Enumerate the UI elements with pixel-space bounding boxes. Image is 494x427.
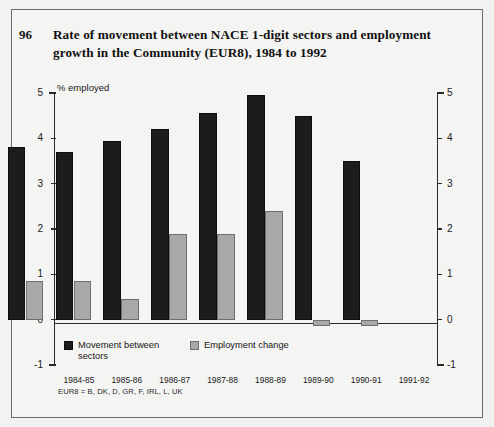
figure-footnote: EUR8 = B, DK, D, GR, F, IRL, L, UK xyxy=(58,387,183,396)
x-axis-label-1986-87: 1986-87 xyxy=(151,375,199,385)
legend-item-employment[interactable]: Employment change xyxy=(190,340,289,351)
bar-employment-1984-85 xyxy=(26,281,44,320)
legend-item-movement[interactable]: Movement between sectors xyxy=(64,340,174,362)
bar-employment-1987-88 xyxy=(169,234,187,319)
bar-movement-1991-92 xyxy=(343,161,361,320)
bar-employment-1989-90 xyxy=(265,211,283,320)
y-tick-right-5 xyxy=(437,92,444,93)
x-axis-label-1989-90: 1989-90 xyxy=(294,375,342,385)
bar-movement-1985-86 xyxy=(56,152,74,320)
y-tick-label-right-3: 3 xyxy=(447,178,467,189)
y-tick-label-right-4: 4 xyxy=(447,132,467,143)
y-tick-label-right--1: -1 xyxy=(447,359,467,370)
y-tick-label-left--1: -1 xyxy=(23,359,43,370)
bar-movement-1989-90 xyxy=(247,95,265,319)
y-axis-unit-label: % employed xyxy=(57,82,109,93)
legend-label: Movement between sectors xyxy=(78,340,174,362)
bar-movement-1987-88 xyxy=(151,129,169,319)
y-tick-label-left-1: 1 xyxy=(23,268,43,279)
chart-legend: Movement between sectorsEmployment chang… xyxy=(64,340,289,362)
bar-employment-1985-86 xyxy=(74,281,92,320)
legend-swatch-black-icon xyxy=(64,341,73,350)
y-tick-right--1 xyxy=(437,364,444,365)
figure-number: 96 xyxy=(19,26,41,43)
page-title: Rate of movement between NACE 1-digit se… xyxy=(53,26,459,61)
bar-employment-1990-91 xyxy=(313,320,331,327)
x-axis-label-1984-85: 1984-85 xyxy=(55,375,103,385)
figure-title-row: 96 Rate of movement between NACE 1-digit… xyxy=(19,26,459,61)
x-axis-label-1990-91: 1990-91 xyxy=(342,375,390,385)
bar-employment-1988-89 xyxy=(217,234,235,319)
bar-movement-1984-85 xyxy=(8,147,26,319)
y-tick-label-right-1: 1 xyxy=(447,268,467,279)
x-axis-label-1987-88: 1987-88 xyxy=(199,375,247,385)
bar-movement-1988-89 xyxy=(199,113,217,319)
bar-movement-1990-91 xyxy=(295,116,313,320)
y-tick-label-right-5: 5 xyxy=(447,87,467,98)
x-axis-labels: 1984-851985-861986-871987-881988-891989-… xyxy=(55,375,438,387)
legend-swatch-gray-icon xyxy=(190,341,199,350)
bar-plot-area xyxy=(55,93,438,365)
bar-movement-1986-87 xyxy=(103,141,121,320)
figure-page: 96 Rate of movement between NACE 1-digit… xyxy=(0,0,494,427)
bar-employment-1986-87 xyxy=(121,299,139,319)
bar-employment-1991-92 xyxy=(361,320,379,327)
y-tick-label-left-2: 2 xyxy=(23,223,43,234)
y-tick-label-right-2: 2 xyxy=(447,223,467,234)
x-axis-label-1991-92: 1991-92 xyxy=(390,375,438,385)
y-tick-label-left-3: 3 xyxy=(23,178,43,189)
x-axis-label-1985-86: 1985-86 xyxy=(103,375,151,385)
x-axis-label-1988-89: 1988-89 xyxy=(247,375,295,385)
y-tick-label-left-5: 5 xyxy=(23,87,43,98)
y-tick-label-right-0: 0 xyxy=(447,314,467,325)
legend-label: Employment change xyxy=(204,340,289,351)
y-tick-label-left-4: 4 xyxy=(23,132,43,143)
